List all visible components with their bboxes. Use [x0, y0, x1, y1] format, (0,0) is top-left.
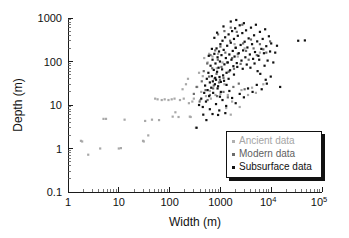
point-ancient [167, 99, 169, 101]
point-subsurface [248, 37, 250, 39]
point-subsurface [225, 57, 227, 59]
point-subsurface [256, 40, 258, 42]
point-subsurface [221, 68, 223, 70]
point-modern [230, 27, 232, 29]
point-subsurface [243, 96, 245, 98]
point-modern [265, 52, 267, 54]
point-modern [204, 89, 206, 91]
point-ancient [247, 94, 249, 96]
point-subsurface [222, 74, 224, 76]
point-subsurface [221, 40, 223, 42]
point-subsurface [265, 45, 267, 47]
point-ancient [171, 98, 173, 100]
point-modern [240, 63, 242, 65]
point-ancient [187, 78, 189, 80]
point-ancient [102, 118, 104, 120]
point-modern [196, 86, 198, 88]
point-modern [262, 48, 264, 50]
point-subsurface [216, 87, 218, 89]
point-subsurface [230, 20, 232, 22]
point-subsurface [267, 59, 269, 61]
point-ancient [191, 100, 193, 102]
point-subsurface [238, 52, 240, 54]
point-subsurface [252, 58, 254, 60]
point-subsurface [213, 69, 215, 71]
x-tick-label: 1 [65, 196, 71, 208]
point-subsurface [222, 25, 224, 27]
point-modern [222, 77, 224, 79]
point-ancient [210, 98, 212, 100]
point-ancient [251, 87, 253, 89]
point-ancient [190, 116, 192, 118]
point-subsurface [219, 96, 221, 98]
point-subsurface [233, 73, 235, 75]
point-subsurface [206, 78, 208, 80]
point-modern [201, 80, 203, 82]
point-ancient [233, 43, 235, 45]
legend-marker-subsurface [232, 166, 235, 169]
point-ancient [173, 98, 175, 100]
point-ancient [179, 99, 181, 101]
x-axis-title: Width (m) [169, 215, 221, 229]
point-ancient [123, 119, 125, 121]
point-modern [232, 86, 234, 88]
point-subsurface [220, 91, 222, 93]
point-subsurface [218, 76, 220, 78]
point-subsurface [259, 73, 261, 75]
point-subsurface [304, 39, 306, 41]
legend-label-subsurface: Subsurface data [239, 162, 312, 173]
point-ancient [193, 98, 195, 100]
point-ancient [185, 83, 187, 85]
point-modern [250, 38, 252, 40]
point-subsurface [239, 93, 241, 95]
point-subsurface [265, 79, 267, 81]
point-subsurface [235, 47, 237, 49]
point-subsurface [220, 81, 222, 83]
point-subsurface [219, 43, 221, 45]
point-subsurface [261, 88, 263, 90]
point-subsurface [263, 65, 265, 67]
point-subsurface [244, 56, 246, 58]
point-modern [259, 43, 261, 45]
point-subsurface [198, 104, 200, 106]
point-ancient [225, 107, 227, 109]
point-subsurface [214, 62, 216, 64]
point-subsurface [224, 112, 226, 114]
point-modern [223, 30, 225, 32]
point-subsurface [237, 35, 239, 37]
point-modern [252, 47, 254, 49]
y-tick-label: 1 [56, 143, 62, 155]
point-modern [214, 49, 216, 51]
point-ancient [223, 83, 225, 85]
point-subsurface [233, 38, 235, 40]
point-subsurface [203, 92, 205, 94]
point-ancient [105, 118, 107, 120]
point-subsurface [208, 55, 210, 57]
point-subsurface [216, 56, 218, 58]
point-ancient [147, 134, 149, 136]
point-ancient [87, 154, 89, 156]
point-ancient [217, 53, 219, 55]
point-subsurface [211, 59, 213, 61]
chart-legend: Ancient data Modern data Subsurface data [226, 131, 322, 178]
point-subsurface [213, 37, 215, 39]
point-modern [238, 83, 240, 85]
point-modern [269, 40, 271, 42]
x-tick-label: 105 [311, 195, 327, 209]
point-subsurface [202, 106, 204, 108]
point-subsurface [209, 81, 211, 83]
point-modern [229, 40, 231, 42]
point-modern [216, 95, 218, 97]
point-subsurface [221, 99, 223, 101]
point-subsurface [226, 45, 228, 47]
point-subsurface [236, 66, 238, 68]
x-tick-label: 10 [113, 196, 125, 208]
point-subsurface [200, 98, 202, 100]
point-subsurface [266, 83, 268, 85]
point-subsurface [229, 69, 231, 71]
point-subsurface [235, 19, 237, 21]
point-subsurface [251, 91, 253, 93]
point-subsurface [217, 114, 219, 116]
point-modern [244, 88, 246, 90]
point-ancient [154, 98, 156, 100]
